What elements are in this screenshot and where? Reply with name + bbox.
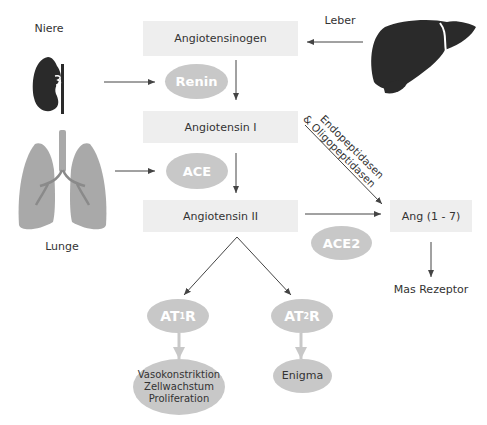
mas-receptor-label: Mas Rezeptor xyxy=(394,283,468,296)
at2r-prefix: AT xyxy=(284,308,303,324)
angiotensinogen-label: Angiotensinogen xyxy=(174,32,267,45)
angiotensin-2-box: Angiotensin II xyxy=(143,200,298,232)
renin-label: Renin xyxy=(176,74,218,89)
at2r-effects-ellipse: Enigma xyxy=(273,359,332,393)
effect-vasoconstriction: Vasokonstriktion xyxy=(138,369,220,381)
ang-1-7-label: Ang (1 - 7) xyxy=(402,210,461,223)
effect-enigma: Enigma xyxy=(282,370,323,382)
at2r-ellipse: AT2R xyxy=(271,299,333,333)
lung-label: Lunge xyxy=(45,240,79,253)
angiotensin-1-box: Angiotensin I xyxy=(143,111,298,143)
angiotensinogen-box: Angiotensinogen xyxy=(143,21,298,56)
at1r-prefix: AT xyxy=(160,308,179,324)
at1r-effects-ellipse: Vasokonstriktion Zellwachstum Proliferat… xyxy=(133,359,225,415)
at1r-ellipse: AT1R xyxy=(147,299,209,333)
at2r-suffix: R xyxy=(309,308,320,324)
kidney-icon xyxy=(33,57,64,114)
ace-label: ACE xyxy=(183,164,211,179)
ang-1-7-box: Ang (1 - 7) xyxy=(390,200,472,232)
at1r-suffix: R xyxy=(185,308,196,324)
angiotensin-1-label: Angiotensin I xyxy=(185,121,257,134)
angiotensin-2-label: Angiotensin II xyxy=(183,210,258,223)
liver-icon xyxy=(371,20,476,93)
liver-label: Leber xyxy=(325,14,356,27)
effect-proliferation: Proliferation xyxy=(149,393,210,405)
ace2-label: ACE2 xyxy=(323,236,361,251)
renin-ellipse: Renin xyxy=(165,64,228,99)
lungs-icon xyxy=(19,130,107,229)
ace2-ellipse: ACE2 xyxy=(311,226,372,260)
effect-cell-growth: Zellwachstum xyxy=(144,381,214,393)
kidney-label: Niere xyxy=(34,22,63,35)
ace-ellipse: ACE xyxy=(166,153,228,189)
